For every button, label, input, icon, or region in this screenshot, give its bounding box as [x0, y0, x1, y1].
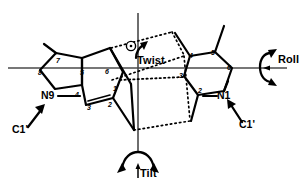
purine-number-6: 6	[105, 68, 109, 75]
roll-axis-pointer	[263, 66, 270, 71]
purine-number-7: 7	[56, 57, 60, 64]
pyrimidine-number-5: 5	[211, 49, 215, 56]
pyrimidine-c2-down-bond	[191, 95, 198, 121]
roll-label: Roll	[278, 54, 299, 65]
n1-label: N1	[217, 90, 230, 101]
purine-c2-bond	[113, 98, 134, 130]
pyrimidine-number-6: 6	[227, 64, 231, 71]
c1prime-right-label: C1'	[239, 119, 255, 130]
c1prime-left-label: C1'	[12, 124, 28, 135]
twist-axis-dot	[130, 45, 133, 48]
twist-label: Twist	[137, 55, 165, 66]
glycosidic-arrow-left-group	[28, 104, 45, 127]
purine-imidazole-ring	[40, 53, 82, 89]
roll-arrowhead-bottom	[268, 78, 277, 86]
tilt-arrowhead-left	[117, 163, 126, 173]
pyrimidine-number-4: 4	[189, 52, 193, 59]
pyrimidine-skeleton	[175, 26, 232, 121]
roll-arrowhead-top	[268, 49, 277, 58]
purine-number-5: 5	[80, 69, 84, 76]
purine-skeleton	[40, 44, 134, 130]
base-pair-diagram: Twist Roll Tilt N9 N1 C1' C1' 7 8 5 4 6 …	[0, 0, 306, 185]
purine-number-4: 4	[75, 91, 79, 98]
purine-number-2: 2	[108, 101, 112, 108]
purine-n7-stub	[44, 44, 56, 53]
purine-lower-substituent-bond	[131, 84, 134, 130]
n9-label: N9	[41, 90, 54, 101]
pyrimidine-number-2: 2	[198, 87, 202, 94]
purine-number-3: 3	[87, 104, 91, 111]
glycosidic-arrow-left	[28, 110, 41, 127]
purine-number-8: 8	[38, 69, 42, 76]
reference-frame-outline	[111, 32, 190, 130]
pyrimidine-number-3: 3	[179, 72, 183, 79]
pyrimidine-c5-substituent-bond	[215, 26, 224, 52]
purine-number-1: 1	[113, 85, 117, 92]
tilt-label: Tilt	[140, 168, 157, 179]
